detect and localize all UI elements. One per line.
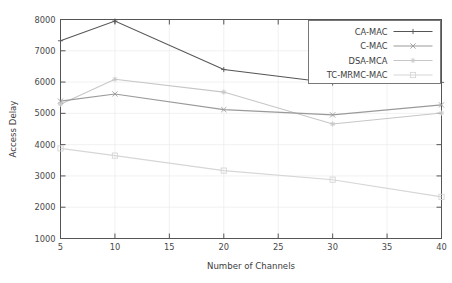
- y-tick-label: 1000: [34, 234, 55, 244]
- x-tick-label: 5: [58, 242, 63, 252]
- x-tick-label: 20: [219, 242, 230, 252]
- x-tick-label: 25: [273, 242, 284, 252]
- series-tc-mrmc-mac: [58, 146, 444, 200]
- x-tick-label: 40: [436, 242, 447, 252]
- y-tick-label: 6000: [34, 77, 55, 87]
- y-tick-label: 2000: [34, 202, 55, 212]
- legend-label-tc-mrmc-mac: TC-MRMC-MAC: [326, 70, 388, 80]
- series-line-dsa-mca: [61, 79, 442, 124]
- legend-label-dsa-mca: DSA-MCA: [349, 56, 388, 66]
- chart-figure: 1000200030004000500060007000800051015202…: [0, 0, 452, 283]
- x-axis-title: Number of Channels: [207, 261, 296, 271]
- series-dsa-mca: [58, 77, 444, 127]
- x-tick-label: 15: [164, 242, 175, 252]
- series-line-c-mac: [61, 94, 442, 115]
- legend-label-ca-mac: CA-MAC: [355, 27, 388, 37]
- line-chart-svg: 1000200030004000500060007000800051015202…: [0, 0, 452, 283]
- y-tick-label: 7000: [34, 46, 55, 56]
- x-tick-label: 35: [382, 242, 393, 252]
- y-tick-label: 5000: [34, 108, 55, 118]
- y-axis-title: Access Delay: [8, 101, 18, 158]
- x-tick-label: 10: [110, 242, 121, 252]
- x-tick-label: 30: [327, 242, 338, 252]
- y-tick-label: 3000: [34, 171, 55, 181]
- y-tick-label: 8000: [34, 15, 55, 25]
- legend-label-c-mac: C-MAC: [360, 41, 387, 51]
- y-tick-label: 4000: [34, 140, 55, 150]
